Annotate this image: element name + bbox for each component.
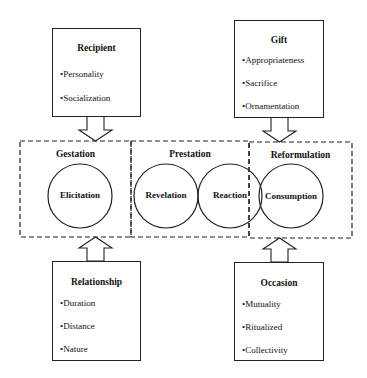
reformulation-label: Reformulation (249, 150, 352, 160)
elicitation-label: Elicitation (45, 190, 115, 200)
relationship-item: •Nature (60, 344, 88, 354)
arrow-up-relationship (79, 237, 112, 261)
relationship-item: •Duration (60, 298, 95, 308)
reaction-label: Reaction (195, 190, 265, 200)
recipient-item: •Personality (60, 69, 104, 79)
relationship-item: •Distance (60, 321, 95, 331)
occasion-title: Occasion (235, 278, 323, 288)
gift-title: Gift (235, 35, 323, 45)
gift-item: •Ornamentation (242, 101, 299, 111)
recipient-title: Recipient (53, 43, 140, 53)
recipient-item: •Socialization (60, 93, 110, 103)
revelation-label: Revelation (131, 190, 201, 200)
gift-item: •Sacrifice (242, 78, 277, 88)
recipient-box: Recipient •Personality •Socialization (52, 28, 141, 117)
occasion-item: •Ritualized (242, 322, 282, 332)
gift-box: Gift •Appropriateness •Sacrifice •Orname… (234, 20, 324, 118)
arrow-up-occasion (263, 238, 296, 262)
occasion-item: •Mutuality (242, 299, 281, 309)
prestation-label: Prestation (131, 149, 249, 159)
relationship-title: Relationship (53, 277, 140, 287)
gestation-label: Gestation (20, 149, 131, 159)
arrow-down-recipient (79, 116, 112, 141)
occasion-item: •Collectivity (242, 345, 288, 355)
occasion-box: Occasion •Mutuality •Ritualized •Collect… (234, 262, 324, 361)
relationship-box: Relationship •Duration •Distance •Nature (52, 261, 141, 361)
gift-item: •Appropriateness (242, 55, 304, 65)
arrow-down-gift (263, 117, 296, 142)
consumption-label: Consumption (256, 191, 326, 201)
